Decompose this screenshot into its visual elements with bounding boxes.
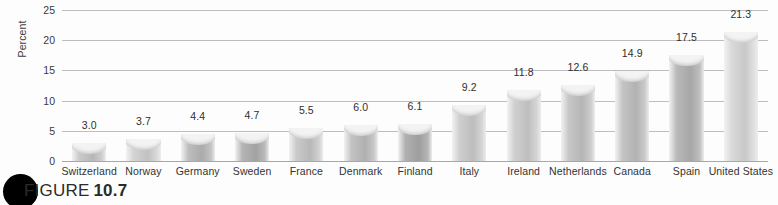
bar-value-label: 11.8 (514, 66, 534, 78)
bar-value-label: 5.5 (299, 104, 314, 116)
bar-value-label: 3.7 (136, 115, 151, 127)
bar-cap (72, 143, 106, 156)
y-tick-label-0: 0 (49, 155, 55, 167)
bar-group: 4.4 (181, 10, 215, 162)
bar-value-label: 4.4 (190, 110, 205, 122)
x-tick-label-italy: Italy (459, 165, 479, 177)
plot-area: 0510152025 3.03.74.44.75.56.06.19.211.81… (62, 10, 768, 162)
bar (344, 125, 378, 161)
x-tick-label-sweden: Sweden (233, 165, 272, 177)
bar-cap (344, 125, 378, 138)
bar (561, 85, 595, 161)
bar (126, 139, 160, 161)
y-tick-label-20: 20 (43, 34, 55, 46)
bar (452, 105, 486, 161)
bar-body (615, 71, 649, 161)
bar-group: 5.5 (289, 10, 323, 162)
bar-value-label: 14.9 (622, 47, 643, 59)
bar-group: 4.7 (235, 10, 269, 162)
bar-group: 6.0 (344, 10, 378, 162)
bar-series: 3.03.74.44.75.56.06.19.211.812.614.917.5… (62, 10, 768, 162)
figure-caption: FIGURE10.7 (24, 181, 127, 201)
bar-value-label: 17.5 (676, 31, 697, 43)
bar-group: 11.8 (507, 10, 541, 162)
bar-group: 3.0 (72, 10, 106, 162)
x-tick-label-ireland: Ireland (507, 165, 540, 177)
bar-cap (289, 128, 323, 141)
x-tick-label-denmark: Denmark (339, 165, 382, 177)
bar (724, 32, 758, 161)
figure-caption-number: 10.7 (93, 181, 127, 200)
bar-cap (181, 134, 215, 147)
bar-cap (561, 85, 595, 98)
bar-group: 17.5 (669, 10, 703, 162)
y-tick-label-25: 25 (43, 4, 55, 16)
y-tick-label-15: 15 (43, 64, 55, 76)
x-tick-label-finland: Finland (397, 165, 432, 177)
bar (235, 133, 269, 161)
x-tick-label-canada: Canada (614, 165, 651, 177)
bar-cap (669, 55, 703, 68)
bar-group: 3.7 (126, 10, 160, 162)
x-tick-label-netherlands: Netherlands (549, 165, 607, 177)
bar-cap (507, 90, 541, 103)
bar (72, 143, 106, 161)
x-tick-label-france: France (290, 165, 323, 177)
x-tick-label-united-states: United States (709, 165, 773, 177)
x-tick-label-germany: Germany (176, 165, 220, 177)
bar-group: 14.9 (615, 10, 649, 162)
bar-value-label: 4.7 (245, 109, 260, 121)
bar-value-label: 9.2 (462, 81, 477, 93)
bar-value-label: 6.1 (408, 100, 423, 112)
bar (289, 128, 323, 161)
bar-value-label: 21.3 (730, 8, 751, 20)
bar-cap (235, 133, 269, 146)
y-axis-title: Percent (16, 4, 32, 74)
bar-group: 21.3 (724, 10, 758, 162)
x-tick-label-norway: Norway (125, 165, 161, 177)
bar-group: 6.1 (398, 10, 432, 162)
bar (669, 55, 703, 161)
bar-value-label: 12.6 (567, 61, 588, 73)
figure-caption-prefix: FIGURE (24, 181, 89, 200)
bar-body (724, 32, 758, 161)
bar-cap (126, 139, 160, 152)
y-tick-label-5: 5 (49, 125, 55, 137)
bar-value-label: 3.0 (82, 119, 97, 131)
bar-body (669, 55, 703, 161)
x-tick-label-spain: Spain (673, 165, 700, 177)
bar-cap (615, 71, 649, 84)
bar (398, 124, 432, 161)
bar (181, 134, 215, 161)
bar (615, 71, 649, 161)
x-axis-labels: SwitzerlandNorwayGermanySwedenFranceDenm… (62, 165, 768, 183)
bar-group: 12.6 (561, 10, 595, 162)
bar-value-label: 6.0 (353, 101, 368, 113)
bar-cap (452, 105, 486, 118)
bar-cap (398, 124, 432, 137)
bar-cap (724, 32, 758, 45)
y-tick-label-10: 10 (43, 95, 55, 107)
x-tick-label-switzerland: Switzerland (61, 165, 116, 177)
figure-container: Percent 0510152025 3.03.74.44.75.56.06.1… (0, 0, 778, 205)
bar (507, 90, 541, 161)
bar-group: 9.2 (452, 10, 486, 162)
